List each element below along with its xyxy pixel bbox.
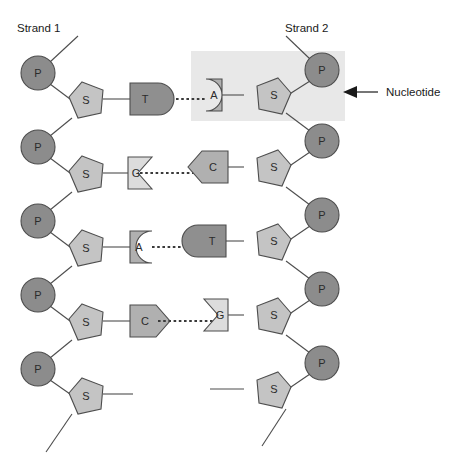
sugar-label: S bbox=[82, 316, 89, 328]
sugar-label: S bbox=[82, 242, 89, 254]
base-label-c: C bbox=[209, 161, 217, 173]
base-label-a2: A bbox=[135, 241, 143, 253]
sugar-label: S bbox=[82, 390, 89, 402]
phosphate-label: P bbox=[34, 215, 41, 227]
sugar-label: S bbox=[82, 94, 89, 106]
strand2-sugars: S S S S S bbox=[257, 78, 291, 408]
sugar-label: S bbox=[270, 89, 277, 101]
base-label-t2: T bbox=[209, 235, 216, 247]
phosphate-label: P bbox=[318, 283, 325, 295]
phosphate-label: P bbox=[318, 64, 325, 76]
phosphate-label: P bbox=[318, 209, 325, 221]
callout-arrowhead-icon bbox=[343, 86, 357, 98]
phosphate-label: P bbox=[34, 289, 41, 301]
base-thymine-left bbox=[130, 83, 174, 115]
phosphate-label: P bbox=[34, 67, 41, 79]
nucleotide-callout-label: Nucleotide bbox=[386, 86, 440, 98]
sugar-label: S bbox=[82, 168, 89, 180]
base-cytosine-right bbox=[188, 151, 228, 183]
strand1-sugar-base-links bbox=[103, 99, 133, 394]
base-pair-row-3: A T bbox=[130, 225, 226, 263]
base-label-a: A bbox=[210, 89, 218, 101]
base-pair-row-2: G C bbox=[128, 151, 228, 189]
strand1-title: Strand 1 bbox=[17, 22, 60, 34]
strand2-title: Strand 2 bbox=[285, 22, 328, 34]
sugar-label: S bbox=[270, 309, 277, 321]
phosphate-label: P bbox=[34, 141, 41, 153]
base-pair-row-4: C G bbox=[130, 299, 228, 337]
base-thymine-right bbox=[182, 225, 226, 257]
base-label-t: T bbox=[142, 93, 149, 105]
strand1-sugars: S S S S S bbox=[69, 82, 103, 414]
phosphate-label: P bbox=[34, 363, 41, 375]
base-label-g: G bbox=[132, 167, 141, 179]
phosphate-label: P bbox=[318, 357, 325, 369]
sugar-label: S bbox=[270, 161, 277, 173]
sugar-label: S bbox=[270, 383, 277, 395]
strand1-phosphates: P P P P P bbox=[21, 56, 55, 386]
sugar-label: S bbox=[270, 235, 277, 247]
base-label-g2: G bbox=[216, 309, 225, 321]
base-label-c2: C bbox=[141, 315, 149, 327]
nucleotide-callout bbox=[343, 86, 378, 98]
phosphate-label: P bbox=[318, 135, 325, 147]
dna-structure-diagram: T A G C A T C G P bbox=[0, 0, 458, 471]
